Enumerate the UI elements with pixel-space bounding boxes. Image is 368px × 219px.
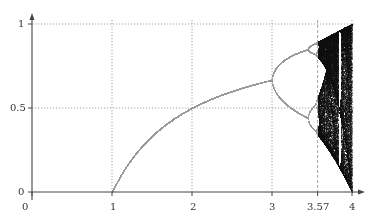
- axes-layer: [0, 0, 368, 219]
- x-tick-label-3: 3: [269, 202, 275, 212]
- y-tick-label-0: 0: [18, 187, 24, 197]
- y-tick-label-0.5: 0.5: [10, 103, 26, 113]
- x-tick-label-0: 0: [22, 202, 28, 212]
- x-tick-label-2: 2: [190, 202, 196, 212]
- x-axis-arrow-icon: [358, 190, 365, 195]
- x-tick-label-3.57: 3.57: [307, 202, 329, 212]
- x-tick-label-4: 4: [349, 202, 355, 212]
- bifurcation-chart: 1 0.5 0 0 1 2 3 3.57 4: [0, 0, 368, 219]
- y-axis-arrow-icon: [30, 13, 35, 20]
- y-tick-label-1: 1: [18, 19, 24, 29]
- x-tick-label-1: 1: [110, 202, 116, 212]
